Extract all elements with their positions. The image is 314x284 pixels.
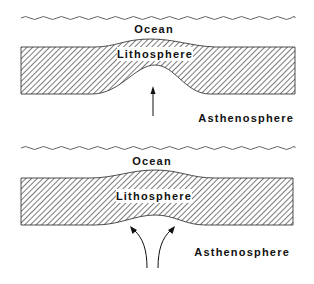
lithosphere-label: Lithosphere bbox=[117, 48, 193, 60]
diverging-arrow-left-icon bbox=[130, 226, 137, 234]
ocean-label: Ocean bbox=[132, 155, 172, 167]
ocean-surface-wave bbox=[21, 17, 295, 20]
asthenosphere-label: Asthenosphere bbox=[194, 246, 290, 258]
diverging-arrow-right-icon bbox=[168, 226, 175, 234]
diverging-arrow-left-shaft bbox=[134, 230, 147, 268]
asthenosphere-label: Asthenosphere bbox=[198, 112, 294, 124]
ocean-label: Ocean bbox=[134, 23, 174, 35]
diagram-canvas: Ocean Lithosphere Asthenosphere Ocean Li… bbox=[0, 0, 314, 284]
upwelling-arrow-icon bbox=[151, 86, 156, 94]
lithosphere-label: Lithosphere bbox=[116, 190, 192, 202]
ocean-surface-wave bbox=[21, 147, 295, 150]
panel-top: Ocean Lithosphere Asthenosphere bbox=[21, 17, 295, 125]
panel-bottom: Ocean Lithosphere Asthenosphere bbox=[21, 147, 295, 269]
diverging-arrow-right-shaft bbox=[158, 230, 171, 268]
